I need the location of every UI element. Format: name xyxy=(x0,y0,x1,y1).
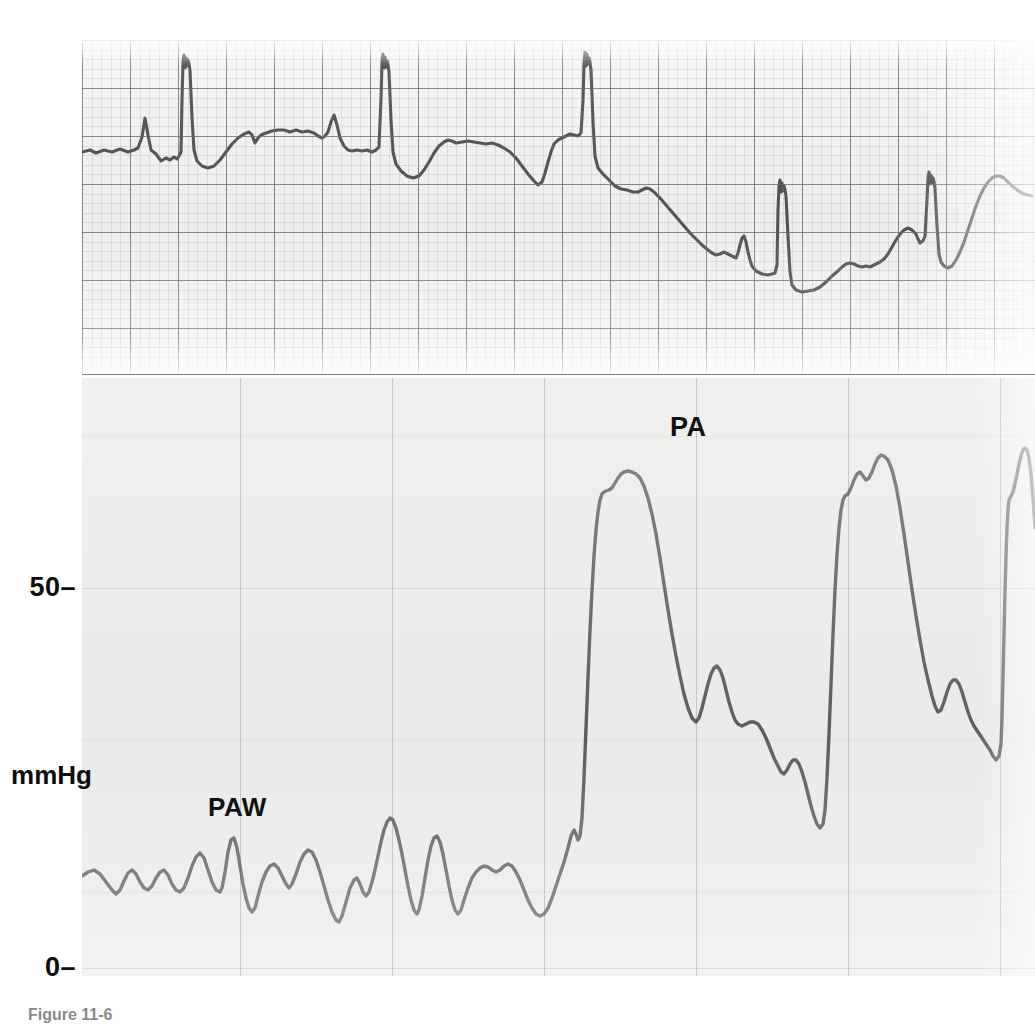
gridline-vertical-2 xyxy=(392,378,393,976)
ecg-panel-bottom-edge xyxy=(82,374,1035,375)
paw-trace-label: PAW xyxy=(208,792,267,823)
pressure-right-fade xyxy=(975,378,1035,976)
ecg-paper-tint xyxy=(82,40,1035,375)
y-axis-unit-label: mmHg xyxy=(0,760,92,791)
gridline-vertical-4 xyxy=(696,378,697,976)
pressure-tracing-panel xyxy=(82,378,1035,976)
figure-caption: Figure 11-6 xyxy=(28,1006,112,1024)
gridline-horizontal-50 xyxy=(82,588,1035,589)
gridline-horizontal-0 xyxy=(82,968,1035,969)
gridline-horizontal-middle xyxy=(82,740,1035,741)
ecg-top-fade xyxy=(82,40,1035,66)
gridline-horizontal-upper xyxy=(82,436,1035,437)
pressure-paper-tint xyxy=(82,378,1035,976)
pa-trace-label: PA xyxy=(670,412,707,443)
gridline-vertical-3 xyxy=(544,378,545,976)
ecg-rhythm-strip-panel xyxy=(82,40,1035,375)
figure-pulmonary-artery-pressure-tracing: 50– 0– mmHg PA PAW Figure 11-6 xyxy=(0,0,1035,1024)
y-axis-tick-50: 50– xyxy=(0,572,76,603)
gridline-horizontal-lower xyxy=(82,892,1035,893)
gridline-vertical-5 xyxy=(848,378,849,976)
ecg-bottom-fade xyxy=(82,335,1035,375)
gridline-vertical-1 xyxy=(240,378,241,976)
y-axis-tick-0: 0– xyxy=(0,952,76,983)
ecg-right-fade xyxy=(915,40,1035,375)
